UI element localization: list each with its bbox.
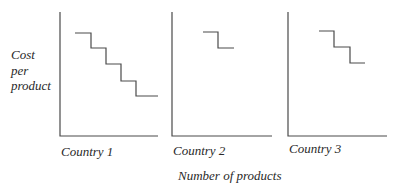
panel-1-axes [60, 12, 158, 136]
y-axis-label-line-1: Cost [11, 47, 51, 63]
panel-1-label: Country 1 [61, 144, 113, 159]
panel-country-2 [172, 12, 272, 136]
x-axis-label: Number of products [178, 168, 282, 183]
panel-2-step-line [203, 32, 234, 48]
panel-2-label: Country 2 [173, 143, 225, 158]
chart-canvas [0, 0, 397, 187]
y-axis-label-line-3: product [11, 78, 51, 94]
panel-3-label: Country 3 [289, 141, 341, 156]
panel-1-step-line [75, 33, 158, 96]
panel-country-3 [288, 12, 387, 136]
panel-3-step-line [319, 31, 365, 63]
y-axis-label: Cost per product [11, 47, 51, 94]
y-axis-label-line-2: per [11, 63, 51, 79]
panel-2-axes [172, 12, 272, 136]
panel-3-axes [288, 12, 387, 136]
panel-country-1 [60, 12, 158, 136]
